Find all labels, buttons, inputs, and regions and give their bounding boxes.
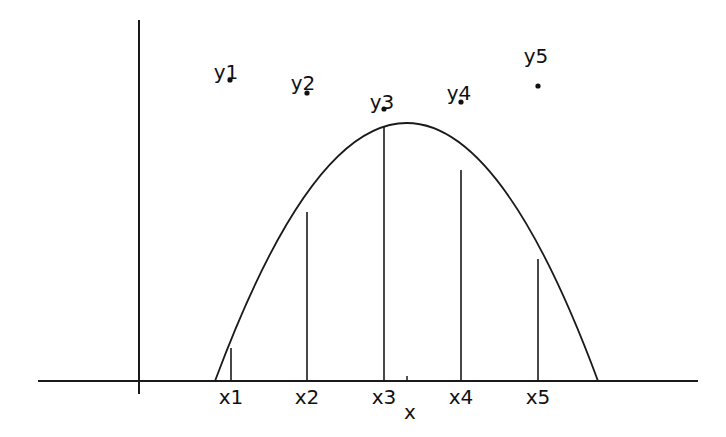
x-axis-label: x (404, 400, 416, 424)
y-label-5: y5 (524, 44, 549, 68)
y-label-4: y4 (447, 81, 472, 105)
sample-lines (231, 126, 538, 381)
x-tick-labels: x1 x2 x3 x4 x5 x (219, 385, 551, 424)
y-label-2: y2 (291, 71, 316, 95)
function-sampling-diagram: x1 x2 x3 x4 x5 x y1 y2 y3 y4 y5 (0, 0, 726, 437)
x-label-1: x1 (219, 385, 244, 409)
x-label-5: x5 (526, 385, 551, 409)
y-label-1: y1 (214, 60, 239, 84)
x-label-3: x3 (372, 385, 397, 409)
point-y5 (535, 83, 540, 88)
x-label-2: x2 (295, 385, 320, 409)
parabola-curve (215, 123, 598, 381)
x-label-4: x4 (449, 385, 474, 409)
y-label-3: y3 (370, 90, 395, 114)
point-labels: y1 y2 y3 y4 y5 (214, 44, 549, 114)
